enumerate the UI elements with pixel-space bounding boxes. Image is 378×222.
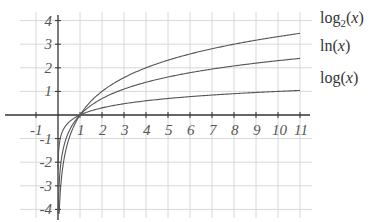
x-tick-label: 1 <box>77 122 85 138</box>
x-tick-label: 3 <box>120 122 129 138</box>
x-tick-label: 8 <box>231 122 239 138</box>
y-tick-label: -2 <box>40 154 53 170</box>
x-tick-label: 6 <box>187 122 195 138</box>
y-tick-label: 3 <box>44 36 53 52</box>
x-tick-label: 11 <box>294 122 308 138</box>
series-label: log(x) <box>320 69 358 87</box>
x-tick-label: 4 <box>143 122 151 138</box>
curve-1 <box>58 58 300 214</box>
logarithm-chart: -112345678910114321-1-2-3-4log2(x)ln(x)l… <box>0 0 378 222</box>
series-label: ln(x) <box>320 37 350 55</box>
curve-0 <box>59 33 300 213</box>
y-tick-label: -4 <box>40 201 53 217</box>
y-tick-label: 2 <box>45 60 53 76</box>
y-tick-label: -3 <box>40 178 53 194</box>
y-tick-label: 4 <box>45 13 53 29</box>
x-tick-label: 10 <box>272 122 288 138</box>
curve-2 <box>58 90 300 169</box>
x-tick-label: 9 <box>253 122 261 138</box>
y-tick-label: 1 <box>45 83 53 99</box>
curves: log2(x)ln(x)log(x) <box>58 9 364 214</box>
series-label: log2(x) <box>320 9 364 29</box>
x-tick-label: 7 <box>209 122 218 138</box>
x-tick-label: 2 <box>99 122 107 138</box>
y-tick-label: -1 <box>40 131 53 147</box>
x-tick-label: 5 <box>165 122 173 138</box>
